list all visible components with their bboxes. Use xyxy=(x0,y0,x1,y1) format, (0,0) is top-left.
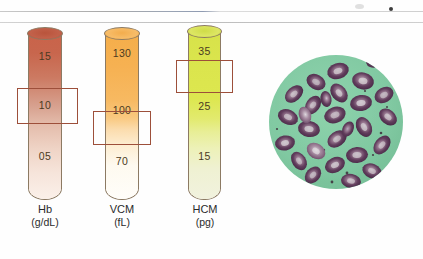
cylinder-hcm-ellipse-top xyxy=(187,25,222,38)
cylinder-hb-tick-high: 15 xyxy=(29,50,61,62)
cylinder-hcm-tick-mid: 25 xyxy=(189,100,220,112)
scan-rule-top xyxy=(0,11,423,12)
caption-hcm-unit: (pg) xyxy=(175,216,235,229)
caption-vcm-name: VCM xyxy=(92,203,152,216)
cylinder-hb-ellipse-top xyxy=(27,27,63,40)
scan-smudge xyxy=(355,4,364,9)
cylinder-hcm-tick-high: 35 xyxy=(189,45,220,57)
blood-smear-micrograph xyxy=(269,55,403,189)
cylinder-vcm-tick-low: 70 xyxy=(106,155,138,167)
highlight-box-hb xyxy=(17,88,78,124)
caption-hb-name: Hb xyxy=(15,203,75,216)
caption-hb: Hb (g/dL) xyxy=(15,203,75,229)
blood-smear-cells xyxy=(269,55,403,189)
scan-rule-second xyxy=(0,22,423,23)
figure-canvas: 15 10 05 Hb (g/dL) 130 100 70 VCM (fL) 3… xyxy=(0,0,423,259)
cylinder-vcm-ellipse-top xyxy=(104,27,140,40)
highlight-box-hcm xyxy=(176,60,233,93)
caption-vcm-unit: (fL) xyxy=(92,216,152,229)
cylinder-vcm-tick-high: 130 xyxy=(106,47,138,59)
scan-dot xyxy=(389,7,393,11)
cylinder-hcm: 35 25 15 xyxy=(188,31,221,200)
cylinder-hb-tick-low: 05 xyxy=(29,150,61,162)
caption-hb-unit: (g/dL) xyxy=(15,216,75,229)
caption-hcm-name: HCM xyxy=(175,203,235,216)
caption-hcm: HCM (pg) xyxy=(175,203,235,229)
highlight-box-vcm xyxy=(93,111,151,145)
cylinder-hcm-tick-low: 15 xyxy=(189,150,220,162)
cylinder-hcm-body: 35 25 15 xyxy=(188,31,221,200)
caption-vcm: VCM (fL) xyxy=(92,203,152,229)
